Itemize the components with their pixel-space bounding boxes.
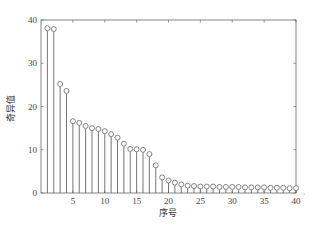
stem-point [172, 180, 177, 193]
stem-point [192, 184, 197, 193]
stem-point [262, 185, 267, 193]
y-tick-label: 40 [28, 15, 38, 25]
stem-point [102, 129, 107, 193]
stem-point [77, 120, 82, 193]
stem-point [294, 186, 299, 193]
circle-marker-icon [217, 184, 222, 189]
stem-point [249, 185, 254, 193]
stem-point [287, 186, 292, 193]
circle-marker-icon [58, 82, 63, 87]
circle-marker-icon [77, 120, 82, 125]
stem-point [160, 175, 165, 193]
circle-marker-icon [243, 185, 248, 190]
x-tick-label: 10 [100, 196, 110, 206]
circle-marker-icon [172, 180, 177, 185]
stem-point [70, 119, 75, 193]
stem-point [45, 26, 50, 193]
circle-marker-icon [185, 183, 190, 188]
stem-point [121, 141, 126, 193]
x-tick-label: 15 [132, 196, 142, 206]
circle-marker-icon [83, 123, 88, 128]
circle-marker-icon [223, 184, 228, 189]
circle-marker-icon [141, 147, 146, 152]
x-tick-label: 5 [71, 196, 76, 206]
stem-point [58, 82, 63, 193]
x-axis-label: 序号 [159, 207, 177, 218]
circle-marker-icon [134, 147, 139, 152]
stem-point [51, 27, 56, 193]
circle-marker-icon [90, 126, 95, 131]
stem-point [211, 184, 216, 193]
stem-point [274, 185, 279, 193]
stem-point [198, 184, 203, 193]
circle-marker-icon [121, 141, 126, 146]
circle-marker-icon [198, 184, 203, 189]
circle-marker-icon [115, 135, 120, 140]
stem-point [185, 183, 190, 193]
circle-marker-icon [294, 186, 299, 191]
circle-marker-icon [255, 185, 260, 190]
x-tick-label: 25 [196, 196, 206, 206]
circle-marker-icon [64, 88, 69, 93]
stem-point [83, 123, 88, 193]
stem-point [281, 185, 286, 193]
y-tick-label: 30 [28, 58, 38, 68]
stem-point [115, 135, 120, 193]
stem-point [134, 147, 139, 193]
circle-marker-icon [51, 27, 56, 32]
circle-marker-icon [249, 185, 254, 190]
circle-marker-icon [192, 184, 197, 189]
stem-point [204, 184, 209, 193]
stem-point [166, 178, 171, 193]
x-tick-label: 30 [228, 196, 238, 206]
stem-point [223, 184, 228, 193]
circle-marker-icon [262, 185, 267, 190]
circle-marker-icon [281, 185, 286, 190]
y-tick-label: 20 [28, 102, 38, 112]
circle-marker-icon [102, 129, 107, 134]
y-tick-label: 0 [33, 188, 38, 198]
circle-marker-icon [211, 184, 216, 189]
circle-marker-icon [147, 152, 152, 157]
stem-series [45, 26, 299, 193]
stem-point [255, 185, 260, 193]
stem-point [109, 132, 114, 193]
circle-marker-icon [128, 146, 133, 151]
circle-marker-icon [236, 184, 241, 189]
circle-marker-icon [70, 119, 75, 124]
stem-point [153, 163, 158, 193]
stem-point [90, 126, 95, 193]
stem-point [179, 182, 184, 193]
x-tick-label: 40 [292, 196, 302, 206]
stem-point [96, 126, 101, 193]
x-tick-label: 20 [164, 196, 174, 206]
circle-marker-icon [179, 182, 184, 187]
circle-marker-icon [96, 126, 101, 131]
circle-marker-icon [160, 175, 165, 180]
stem-point [141, 147, 146, 193]
circle-marker-icon [166, 178, 171, 183]
circle-marker-icon [268, 185, 273, 190]
stem-point [64, 88, 69, 193]
y-axis-label: 奇异值 [5, 95, 16, 122]
stem-point [230, 184, 235, 193]
circle-marker-icon [45, 26, 50, 31]
singular-value-stem-chart: 510152025303540010203040 序号 奇异值 ° [0, 0, 314, 229]
stem-point [128, 146, 133, 193]
corner-mark: ° [303, 192, 305, 197]
stem-point [243, 185, 248, 193]
y-tick-label: 10 [28, 145, 38, 155]
circle-marker-icon [287, 186, 292, 191]
stem-point [268, 185, 273, 193]
circle-marker-icon [274, 185, 279, 190]
stem-point [236, 184, 241, 193]
stem-point [217, 184, 222, 193]
x-tick-label: 35 [260, 196, 270, 206]
circle-marker-icon [153, 163, 158, 168]
circle-marker-icon [109, 132, 114, 137]
circle-marker-icon [230, 184, 235, 189]
stem-point [147, 152, 152, 193]
circle-marker-icon [204, 184, 209, 189]
